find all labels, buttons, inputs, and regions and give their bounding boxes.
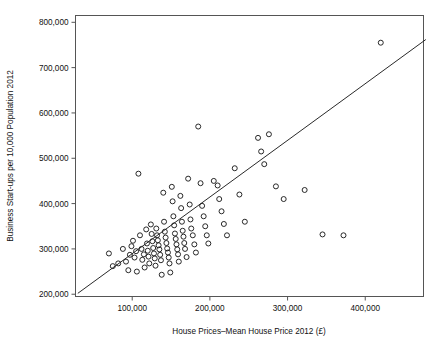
data-point bbox=[189, 226, 194, 231]
data-point bbox=[151, 251, 156, 256]
data-point bbox=[206, 241, 211, 246]
data-point bbox=[179, 206, 184, 211]
data-point bbox=[144, 227, 149, 232]
data-point bbox=[192, 242, 197, 247]
y-axis-tick-labels: 200,000300,000400,000500,000600,000700,0… bbox=[39, 18, 69, 299]
data-point bbox=[273, 184, 278, 189]
data-point bbox=[224, 233, 229, 238]
y-axis-label: Business Start-ups per 10,000 Population… bbox=[6, 70, 15, 242]
y-tick-label: 400,000 bbox=[39, 200, 69, 209]
data-point bbox=[256, 135, 261, 140]
data-point bbox=[259, 149, 264, 154]
regression-line bbox=[78, 40, 426, 294]
data-point bbox=[148, 222, 153, 227]
data-point bbox=[320, 232, 325, 237]
y-axis-ticks bbox=[72, 22, 76, 294]
data-point bbox=[172, 231, 177, 236]
data-point bbox=[171, 214, 176, 219]
data-point bbox=[161, 190, 166, 195]
data-point bbox=[151, 246, 156, 251]
data-point bbox=[186, 176, 191, 181]
data-point bbox=[168, 270, 173, 275]
data-point bbox=[201, 214, 206, 219]
data-point bbox=[134, 269, 139, 274]
plot-canvas: 100,000200,000300,000400,000 200,000300,… bbox=[0, 0, 437, 345]
data-point bbox=[159, 272, 164, 277]
y-tick-label: 500,000 bbox=[39, 154, 69, 163]
data-point bbox=[232, 166, 237, 171]
data-point bbox=[137, 233, 142, 238]
data-point bbox=[142, 265, 147, 270]
x-axis-tick-labels: 100,000200,000300,000400,000 bbox=[117, 304, 380, 313]
data-point bbox=[158, 252, 163, 257]
data-point bbox=[130, 238, 135, 243]
data-points bbox=[106, 40, 383, 277]
data-point bbox=[169, 184, 174, 189]
data-point bbox=[129, 244, 134, 249]
data-point bbox=[341, 233, 346, 238]
data-point bbox=[184, 255, 189, 260]
data-point bbox=[162, 219, 167, 224]
data-point bbox=[145, 248, 150, 253]
data-point bbox=[183, 246, 188, 251]
data-point bbox=[266, 132, 271, 137]
x-axis-label: House Prices–Mean House Price 2012 (£) bbox=[172, 327, 326, 336]
data-point bbox=[149, 231, 154, 236]
data-point bbox=[281, 197, 286, 202]
data-point bbox=[164, 241, 169, 246]
data-point bbox=[378, 40, 383, 45]
scatter-plot-figure: 100,000200,000300,000400,000 200,000300,… bbox=[0, 0, 437, 345]
data-point bbox=[221, 221, 226, 226]
data-point bbox=[219, 209, 224, 214]
data-point bbox=[302, 187, 307, 192]
data-point bbox=[242, 219, 247, 224]
data-point bbox=[176, 259, 181, 264]
data-point bbox=[152, 256, 157, 261]
data-point bbox=[187, 202, 192, 207]
x-tick-label: 100,000 bbox=[117, 304, 147, 313]
data-point bbox=[170, 199, 175, 204]
data-point bbox=[211, 178, 216, 183]
data-point bbox=[203, 224, 208, 229]
data-point bbox=[174, 242, 179, 247]
data-point bbox=[217, 197, 222, 202]
data-point bbox=[153, 263, 158, 268]
data-point bbox=[181, 234, 186, 239]
data-point bbox=[175, 247, 180, 252]
x-tick-label: 200,000 bbox=[195, 304, 225, 313]
data-point bbox=[155, 238, 160, 243]
data-point bbox=[180, 228, 185, 233]
data-point bbox=[179, 219, 184, 224]
data-point bbox=[146, 254, 151, 259]
data-point bbox=[126, 268, 131, 273]
data-point bbox=[193, 250, 198, 255]
x-tick-label: 300,000 bbox=[273, 304, 303, 313]
data-point bbox=[237, 192, 242, 197]
data-point bbox=[167, 261, 172, 266]
data-point bbox=[182, 241, 187, 246]
data-point bbox=[190, 233, 195, 238]
data-point bbox=[154, 226, 159, 231]
data-point bbox=[140, 257, 145, 262]
data-point bbox=[123, 259, 128, 264]
data-point bbox=[188, 217, 193, 222]
data-point bbox=[106, 251, 111, 256]
y-tick-label: 600,000 bbox=[39, 109, 69, 118]
x-axis-ticks bbox=[132, 297, 365, 301]
data-point bbox=[198, 181, 203, 186]
data-point bbox=[204, 233, 209, 238]
data-point bbox=[200, 203, 205, 208]
data-point bbox=[196, 124, 201, 129]
y-tick-label: 200,000 bbox=[39, 290, 69, 299]
y-tick-label: 300,000 bbox=[39, 245, 69, 254]
data-point bbox=[215, 183, 220, 188]
data-point bbox=[163, 235, 168, 240]
data-point bbox=[136, 171, 141, 176]
fit-line bbox=[78, 40, 426, 294]
data-point bbox=[176, 252, 181, 257]
y-tick-label: 700,000 bbox=[39, 64, 69, 73]
data-point bbox=[147, 261, 152, 266]
y-tick-label: 800,000 bbox=[39, 18, 69, 27]
data-point bbox=[173, 236, 178, 241]
data-point bbox=[262, 162, 267, 167]
